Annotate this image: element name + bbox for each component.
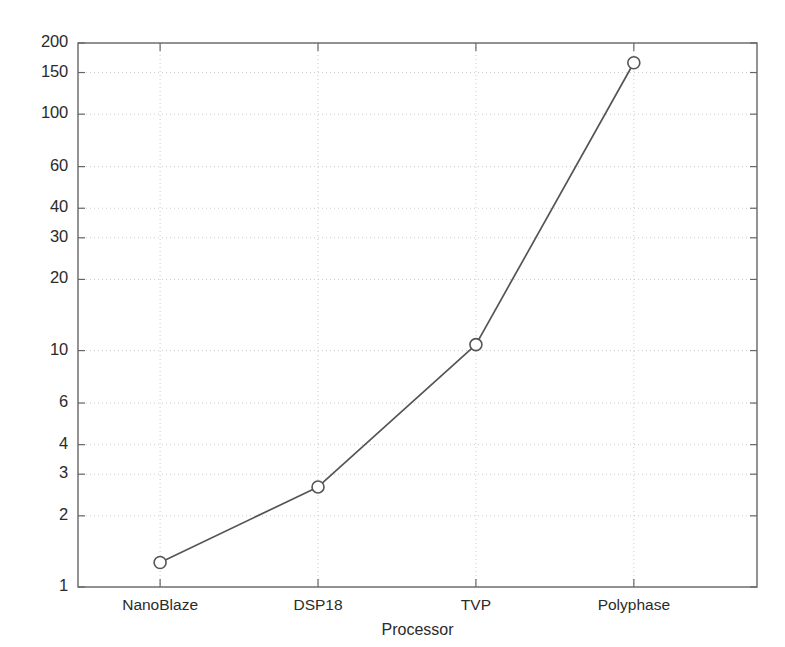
- data-markers-msps: [154, 57, 640, 569]
- x-axis-title: Processor: [268, 621, 568, 639]
- chart-canvas: [0, 0, 785, 647]
- x-tick-label: TVP: [396, 596, 556, 614]
- x-tick-label: NanoBlaze: [80, 596, 240, 614]
- axis-frame: [78, 43, 757, 587]
- y-tick-label: 3: [59, 463, 68, 482]
- chart-figure: 123461020304060100150200 NanoBlazeDSP18T…: [0, 0, 785, 647]
- y-tick-label: 4: [59, 434, 68, 453]
- y-tick-label: 40: [50, 197, 68, 216]
- y-tick-label: 200: [41, 32, 68, 51]
- y-tick-label: 6: [59, 392, 68, 411]
- y-tick-label: 150: [41, 62, 68, 81]
- y-tick-label: 100: [41, 103, 68, 122]
- vertical-gridlines: [160, 43, 634, 587]
- x-tick-label: Polyphase: [554, 596, 714, 614]
- axis-tick-marks: [78, 43, 757, 587]
- x-tick-label: DSP18: [238, 596, 398, 614]
- data-line-msps: [160, 63, 634, 563]
- horizontal-gridlines: [78, 43, 757, 587]
- y-tick-label: 10: [50, 340, 68, 359]
- y-tick-label: 60: [50, 156, 68, 175]
- y-tick-label: 2: [59, 505, 68, 524]
- y-tick-label: 1: [59, 576, 68, 595]
- y-tick-label: 30: [50, 227, 68, 246]
- y-tick-label: 20: [50, 268, 68, 287]
